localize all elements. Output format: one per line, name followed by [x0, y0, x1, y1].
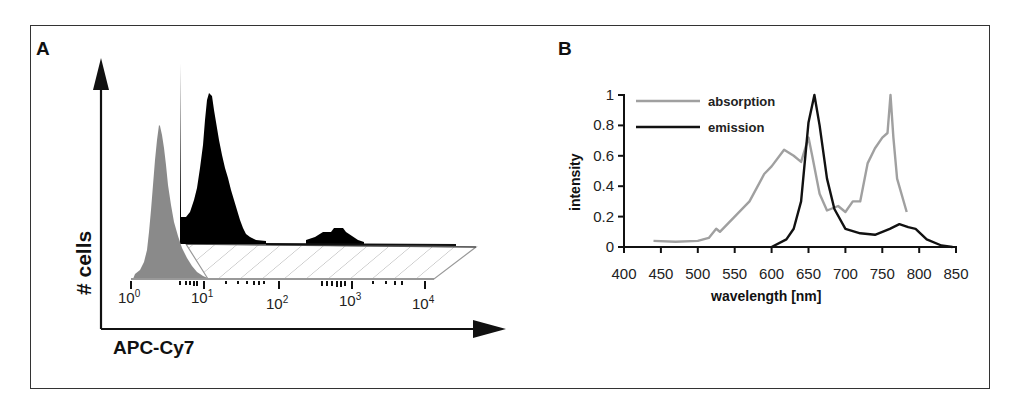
panel-b-axes [618, 94, 957, 253]
panel-b-label: B [558, 38, 572, 59]
histogram-back-plane [186, 244, 476, 279]
svg-text:500: 500 [685, 265, 710, 282]
panel-a-tick-labels: 100 101 102 103 104 [118, 288, 435, 312]
svg-text:550: 550 [722, 265, 747, 282]
svg-text:102: 102 [266, 294, 289, 312]
svg-text:103: 103 [339, 291, 362, 309]
panel-b: B 0 0.2 0.4 0. [558, 38, 969, 304]
svg-text:1: 1 [606, 86, 614, 103]
svg-text:0.8: 0.8 [593, 116, 614, 133]
y-axis-arrow-icon [93, 58, 109, 90]
svg-text:400: 400 [611, 265, 636, 282]
panel-a: A 100 [36, 38, 506, 358]
absorption-line [654, 95, 907, 242]
panel-b-legend: absorption emission [636, 94, 775, 135]
svg-text:0.4: 0.4 [593, 177, 614, 194]
svg-text:100: 100 [118, 288, 141, 306]
histogram-stained [180, 63, 266, 244]
svg-text:0.2: 0.2 [593, 208, 614, 225]
svg-text:450: 450 [648, 265, 673, 282]
panel-b-x-title: wavelength [nm] [710, 288, 821, 304]
svg-text:0.6: 0.6 [593, 147, 614, 164]
figure-canvas: A 100 [0, 0, 1018, 413]
svg-text:101: 101 [191, 288, 214, 306]
x-axis-arrow-icon [473, 320, 506, 338]
emission-line [772, 95, 953, 247]
panel-a-ticks [131, 281, 425, 289]
legend-emission-label: emission [708, 120, 764, 135]
svg-text:850: 850 [943, 265, 968, 282]
panel-a-x-title: APC-Cy7 [113, 337, 194, 358]
panel-b-y-tick-labels: 0 0.2 0.4 0.6 0.8 1 [593, 86, 614, 255]
svg-text:600: 600 [759, 265, 784, 282]
svg-text:0: 0 [606, 238, 614, 255]
panel-a-y-title: # cells [72, 231, 95, 295]
panel-b-x-tick-labels: 400 450 500 550 600 650 700 750 800 850 [611, 265, 968, 282]
svg-text:800: 800 [907, 265, 932, 282]
svg-text:104: 104 [412, 294, 435, 312]
svg-text:750: 750 [870, 265, 895, 282]
panel-a-label: A [36, 38, 50, 59]
legend-absorption-label: absorption [708, 94, 775, 109]
svg-text:650: 650 [796, 265, 821, 282]
svg-text:700: 700 [833, 265, 858, 282]
panel-b-y-title: intensity [567, 153, 583, 211]
histogram-stained-minor-peak [306, 228, 364, 244]
